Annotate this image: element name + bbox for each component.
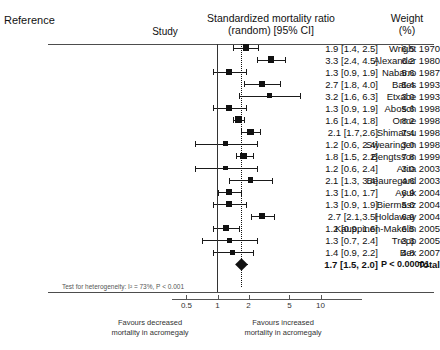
study-marker [227,238,232,243]
x-axis-tick [186,295,187,300]
favours-decreased-line1: Favours decreased [95,318,205,328]
x-axis-line [172,299,362,300]
ci-cap-right [274,214,275,220]
header-smr-line2: (random) [95% CI] [196,24,346,36]
weight-value: 6.9 [380,211,436,222]
ci-cap-right [246,105,247,111]
x-axis-tick-label: 0.5 [171,301,201,310]
weight-value: 6.5 [380,43,436,54]
ci-cap-right [253,250,254,256]
estimate-ci-value: 1.2 [0.6, 2.4] [300,139,378,150]
ci-cap-left [213,226,214,232]
favours-increased-line2: mortality in acromegaly [228,328,338,338]
estimate-ci-value: 1.8 [1.5, 2.2] [300,151,378,162]
ci-cap-right [258,45,259,51]
ci-cap-left [195,166,196,172]
estimate-ci-value: 3.2 [1.6, 6.3] [300,91,378,102]
weight-value: 8.2 [380,115,436,126]
x-axis-tick [289,295,290,300]
ci-cap-left [251,214,252,220]
estimate-ci-value: 1.2 [0.9, 1.6] [300,223,378,234]
header-weight-line2: (%) [378,24,436,36]
estimate-ci-value: 2.7 [2.1,3.5] [300,211,378,222]
x-axis-tick [218,295,219,300]
ci-cap-right [260,129,261,135]
x-axis-tick-label: 5 [274,301,304,310]
ci-cap-left [229,178,230,184]
x-axis-tick-label: 10 [306,301,336,310]
x-axis-tick-label: 1 [203,301,233,310]
study-marker [226,105,232,111]
weight-value: 3.0 [380,139,436,150]
forest-plot-root: Reference Study Standardized mortality r… [0,0,440,350]
table-bottom-rule [48,292,434,293]
estimate-ci-value: 3.3 [2.4, 4.5] [300,55,378,66]
weight-value: 5.6 [380,199,436,210]
ci-cap-right [280,81,281,87]
ci-cap-left [213,202,214,208]
ci-cap-left [213,105,214,111]
weight-value: 7.8 [380,151,436,162]
pooled-effect-line [241,44,242,287]
ci-cap-left [195,141,196,147]
weight-value: 3.3 [380,235,436,246]
estimate-ci-value: 1.7 [1.5, 2.0] [300,259,378,270]
ci-cap-right [285,57,286,63]
ci-cap-left [202,238,203,244]
x-axis-tick [249,295,250,300]
favours-increased-label: Favours increased mortality in acromegal… [228,318,338,338]
weight-value: P < 0.00001 [381,259,437,269]
ci-cap-right [257,141,258,147]
estimate-ci-value: 1.3 [0.7, 2.4] [300,235,378,246]
weight-value: 5.6 [380,103,436,114]
x-axis-tick [321,295,322,300]
header-weight: Weight (%) [378,12,436,36]
estimate-ci-value: 1.6 [1.4, 1.8] [300,115,378,126]
ci-cap-right [257,238,258,244]
study-marker [226,189,232,195]
weight-value: 6.9 [380,187,436,198]
favours-decreased-line2: mortality in acromegaly [95,328,205,338]
weight-value: 6.5 [380,223,436,234]
weight-value: 5.4 [380,79,436,90]
header-weight-line1: Weight [378,12,436,24]
study-marker [230,250,236,256]
heterogeneity-text: Test for heterogeneity: I² = 73%, P < 0.… [62,283,184,290]
x-axis-tick-label: 2 [234,301,264,310]
header-study: Study [125,26,205,37]
study-marker [259,81,265,87]
ci-cap-left [233,117,234,123]
ci-cap-left [233,45,234,51]
ci-cap-left [236,153,237,159]
weight-value: 3.0 [380,163,436,174]
study-marker [226,201,232,207]
study-marker [226,69,232,75]
study-marker [247,129,254,136]
ci-cap-right [300,93,301,99]
ci-cap-right [246,69,247,75]
weight-value: 4.8 [380,247,436,258]
estimate-ci-value: 1.4 [0.9, 2.2] [300,247,378,258]
header-smr: Standardized mortality ratio (random) [9… [196,12,346,36]
estimate-ci-value: 1.3 [0.9, 1.9] [300,199,378,210]
estimate-ci-value: 2.1 [1.3, 3.4] [300,175,378,186]
ci-cap-left [244,81,245,87]
ci-cap-left [213,250,214,256]
null-effect-line [217,44,218,293]
header-smr-line1: Standardized mortality ratio [196,12,346,24]
study-marker [267,93,272,98]
estimate-ci-value: 1.3 [0.9, 1.9] [300,67,378,78]
ci-cap-right [253,153,254,159]
study-marker [223,166,228,171]
favours-decreased-label: Favours decreased mortality in acromegal… [95,318,205,338]
weight-value: 6.2 [380,55,436,66]
estimate-ci-value: 1.3 [1.0, 1.7] [300,187,378,198]
header-reference: Reference [4,14,55,26]
ci-cap-right [246,202,247,208]
study-marker [259,213,265,219]
ci-cap-right [239,226,240,232]
weight-value: 3.0 [380,91,436,102]
ci-cap-left [239,93,240,99]
ci-cap-left [257,57,258,63]
estimate-ci-value: 1.3 [0.9, 1.9] [300,103,378,114]
